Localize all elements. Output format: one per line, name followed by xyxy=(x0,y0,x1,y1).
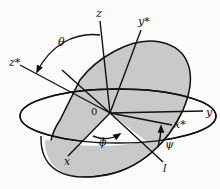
label-psi: ψ xyxy=(165,138,174,151)
label-l: l xyxy=(163,162,167,175)
label-origin: 0 xyxy=(91,106,97,117)
label-y-star: y* xyxy=(137,15,150,28)
label-phi: ϕ xyxy=(99,136,107,149)
label-x-star: x* xyxy=(174,118,186,131)
label-z: z xyxy=(95,7,102,20)
label-z-star: z* xyxy=(8,56,21,69)
theta-arc xyxy=(37,35,100,72)
label-theta: θ xyxy=(58,36,65,49)
label-x: x xyxy=(64,155,71,168)
label-y: y xyxy=(205,106,213,119)
euler-angles-diagram: z y* z* θ 0 y x* ϕ ψ x l xyxy=(0,0,220,189)
